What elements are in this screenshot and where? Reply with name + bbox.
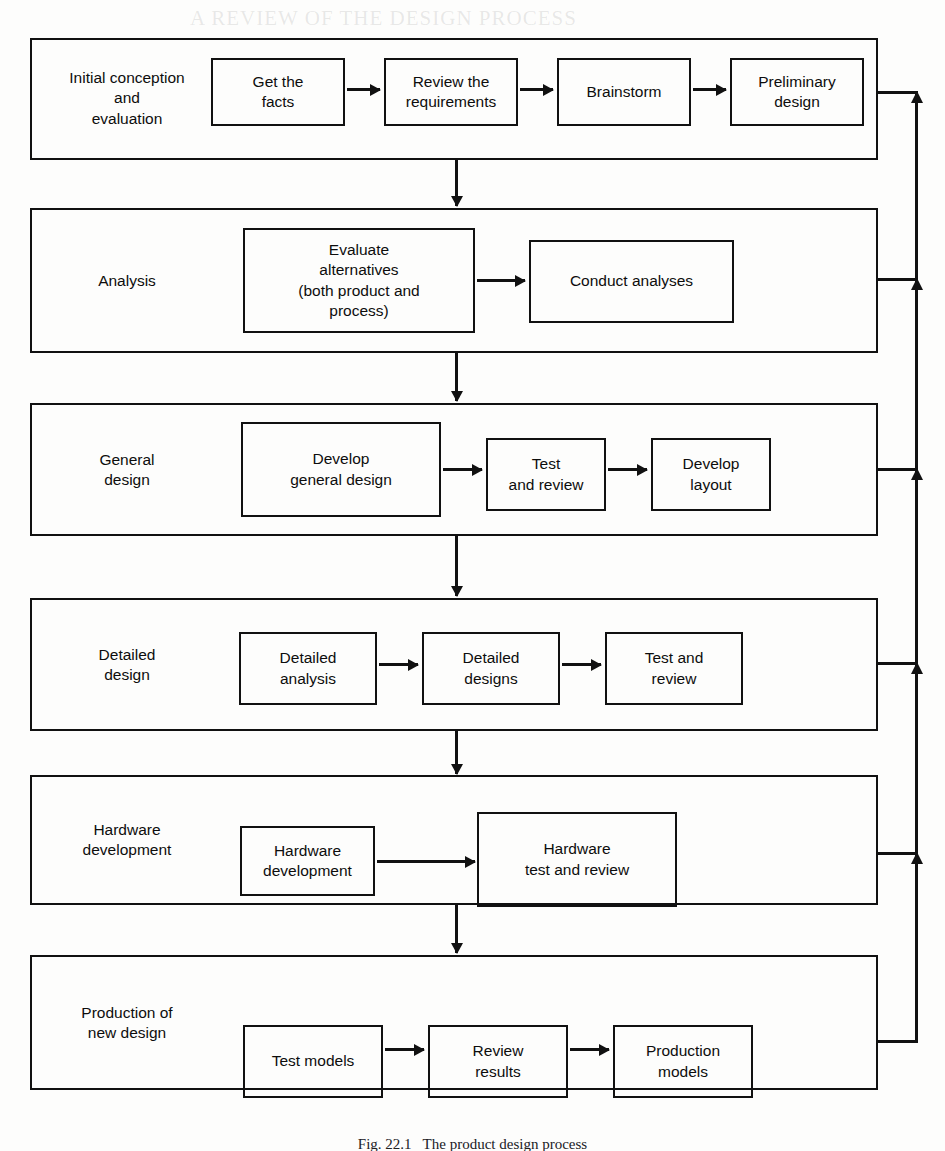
node-label-evaluate-alternatives: Evaluate alternatives (both product and … bbox=[298, 240, 420, 321]
feedback-source-stub-production bbox=[876, 1040, 918, 1043]
arrow-review-results-to-production-models bbox=[570, 1048, 609, 1051]
node-hardware-development[interactable]: Hardware development bbox=[240, 826, 375, 896]
arrow-test-and-review-to-develop-layout bbox=[608, 468, 647, 471]
arrow-test-models-to-review-results bbox=[385, 1048, 424, 1051]
feedback-arrowhead-hardware-development bbox=[915, 853, 918, 859]
band-label-initial-conception: Initial conception and evaluation bbox=[32, 68, 222, 129]
node-label-conduct-analyses: Conduct analyses bbox=[570, 271, 693, 291]
page-showthrough-text: A REVIEW OF THE DESIGN PROCESS bbox=[190, 6, 577, 31]
arrow-develop-general-design-to-test-and-review bbox=[443, 468, 482, 471]
feedback-entry-initial-conception bbox=[876, 91, 918, 94]
arrow-evaluate-alternatives-to-conduct-analyses bbox=[477, 279, 525, 282]
arrow-band-general-design-to-detailed-design bbox=[455, 536, 458, 596]
node-develop-layout[interactable]: Develop layout bbox=[651, 438, 771, 511]
arrow-band-analysis-to-general-design bbox=[455, 353, 458, 401]
band-label-detailed-design: Detailed design bbox=[32, 644, 222, 685]
node-label-develop-general-design: Develop general design bbox=[290, 449, 392, 489]
node-label-get-the-facts: Get the facts bbox=[253, 72, 304, 112]
node-preliminary-design[interactable]: Preliminary design bbox=[730, 58, 864, 126]
node-label-test-and-review-detailed: Test and review bbox=[645, 648, 704, 688]
node-evaluate-alternatives[interactable]: Evaluate alternatives (both product and … bbox=[243, 228, 475, 333]
band-label-production-of-new-design: Production of new design bbox=[32, 1002, 222, 1043]
node-conduct-analyses[interactable]: Conduct analyses bbox=[529, 240, 734, 323]
node-label-test-models: Test models bbox=[272, 1051, 355, 1071]
node-label-test-and-review-general: Test and review bbox=[509, 454, 584, 494]
figure-canvas: A REVIEW OF THE DESIGN PROCESS Initial c… bbox=[0, 0, 945, 1151]
node-production-models[interactable]: Production models bbox=[613, 1025, 753, 1098]
node-test-and-review-detailed[interactable]: Test and review bbox=[605, 632, 743, 705]
node-label-review-results: Review results bbox=[473, 1041, 524, 1081]
node-label-hardware-development: Hardware development bbox=[263, 841, 352, 881]
node-get-the-facts[interactable]: Get the facts bbox=[211, 58, 345, 126]
feedback-arrowhead-general-design bbox=[915, 469, 918, 475]
node-review-results[interactable]: Review results bbox=[428, 1025, 568, 1098]
node-label-production-models: Production models bbox=[646, 1041, 720, 1081]
node-label-detailed-analysis: Detailed analysis bbox=[280, 648, 337, 688]
feedback-riser-to-initial-conception bbox=[915, 92, 918, 1043]
arrow-brainstorm-to-preliminary-design bbox=[693, 88, 726, 91]
band-label-general-design: General design bbox=[32, 449, 222, 490]
node-label-review-requirements: Review the requirements bbox=[406, 72, 496, 112]
arrow-detailed-designs-to-test-and-review bbox=[562, 663, 601, 666]
band-label-analysis: Analysis bbox=[32, 270, 222, 290]
arrow-get-the-facts-to-review-requirements bbox=[347, 88, 380, 91]
node-review-requirements[interactable]: Review the requirements bbox=[384, 58, 518, 126]
node-develop-general-design[interactable]: Develop general design bbox=[241, 422, 441, 517]
node-hardware-test-and-review[interactable]: Hardware test and review bbox=[477, 812, 677, 907]
node-label-develop-layout: Develop layout bbox=[683, 454, 740, 494]
feedback-arrowhead-analysis bbox=[915, 279, 918, 285]
band-label-hardware-development: Hardware development bbox=[32, 820, 222, 861]
arrow-band-initial-conception-to-analysis bbox=[455, 160, 458, 206]
node-brainstorm[interactable]: Brainstorm bbox=[557, 58, 691, 126]
arrow-review-requirements-to-brainstorm bbox=[520, 88, 553, 91]
band-hardware-development: Hardware development bbox=[30, 775, 878, 905]
figure-caption: Fig. 22.1 The product design process bbox=[0, 1136, 945, 1151]
node-label-preliminary-design: Preliminary design bbox=[758, 72, 836, 112]
arrow-hardware-development-to-hardware-test-and-review bbox=[377, 860, 475, 863]
node-detailed-designs[interactable]: Detailed designs bbox=[422, 632, 560, 705]
node-detailed-analysis[interactable]: Detailed analysis bbox=[239, 632, 377, 705]
arrow-band-hardware-development-to-production bbox=[455, 905, 458, 953]
node-test-and-review-general[interactable]: Test and review bbox=[486, 438, 606, 511]
node-label-hardware-test-and-review: Hardware test and review bbox=[525, 839, 629, 879]
node-test-models[interactable]: Test models bbox=[243, 1025, 383, 1098]
arrow-band-detailed-design-to-hardware-development bbox=[455, 731, 458, 774]
node-label-detailed-designs: Detailed designs bbox=[463, 648, 520, 688]
arrow-detailed-analysis-to-detailed-designs bbox=[379, 663, 418, 666]
node-label-brainstorm: Brainstorm bbox=[587, 82, 662, 102]
feedback-arrowhead-detailed-design bbox=[915, 663, 918, 669]
